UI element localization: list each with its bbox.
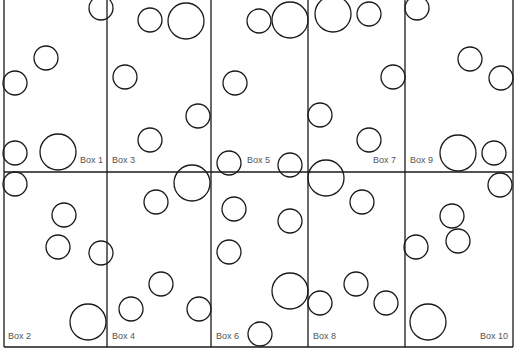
box-label: Box 4 [112, 331, 135, 341]
circle [46, 235, 70, 259]
circle [149, 272, 173, 296]
circle [247, 9, 271, 33]
circle [489, 66, 513, 90]
circle [350, 190, 374, 214]
circle [272, 273, 308, 309]
circle [223, 71, 247, 95]
box-label: Box 6 [216, 331, 239, 341]
circle [89, 241, 113, 265]
box-label: Box 10 [480, 331, 508, 341]
circle [272, 2, 308, 38]
circle [344, 272, 368, 296]
circle [315, 0, 351, 32]
circle [440, 204, 464, 228]
circle [113, 65, 137, 89]
circle [357, 2, 381, 26]
circle [3, 141, 27, 165]
circle [381, 65, 405, 89]
grid-lines [4, 0, 513, 347]
circle [488, 173, 512, 197]
circle [187, 297, 211, 321]
circle [405, 0, 429, 20]
circle [40, 134, 76, 170]
circle [144, 190, 168, 214]
circle [440, 135, 476, 171]
circle [138, 8, 162, 32]
circle [222, 197, 246, 221]
circle [374, 291, 398, 315]
circle [308, 291, 332, 315]
circle [3, 172, 27, 196]
circle [52, 203, 76, 227]
circle [278, 209, 302, 233]
circle [410, 304, 446, 340]
circle [3, 71, 27, 95]
circle [446, 229, 470, 253]
box-labels: Box 1Box 3Box 5Box 7Box 9Box 2Box 4Box 6… [8, 155, 508, 341]
box-grid-diagram: Box 1Box 3Box 5Box 7Box 9Box 2Box 4Box 6… [0, 0, 516, 356]
box-label: Box 5 [247, 155, 270, 165]
circle [482, 141, 506, 165]
box-label: Box 9 [410, 155, 433, 165]
circle [186, 104, 210, 128]
circle [34, 46, 58, 70]
circle [119, 297, 143, 321]
circles [3, 0, 513, 346]
circle [278, 153, 302, 177]
circle [308, 160, 344, 196]
box-label: Box 7 [373, 155, 396, 165]
circle [357, 128, 381, 152]
circle [70, 304, 106, 340]
circle [89, 0, 113, 20]
circle [404, 235, 428, 259]
box-label: Box 8 [313, 331, 336, 341]
circle [308, 103, 332, 127]
box-label: Box 2 [8, 331, 31, 341]
circle [174, 165, 210, 201]
circle [168, 3, 204, 39]
circle [458, 47, 482, 71]
box-label: Box 1 [80, 155, 103, 165]
circle [138, 128, 162, 152]
circle [217, 240, 241, 264]
circle [248, 322, 272, 346]
box-label: Box 3 [112, 155, 135, 165]
